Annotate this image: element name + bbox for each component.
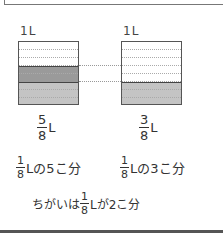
left-amount: 5 8 L [37,113,56,142]
beaker-left [18,41,79,105]
difference-statement: ちがいは 1 8 Lが2こ分 [32,191,140,216]
right-description: 1 8 Lの3こ分 [120,155,185,180]
water-level-line [122,82,181,83]
segment [19,50,78,58]
segment [122,50,181,58]
segment [122,74,181,82]
water-level-line [19,66,78,67]
beaker-left-label: 1L [20,24,36,38]
fraction: 1 8 [80,191,89,216]
segment-filled [122,98,181,104]
unit: L [48,120,55,135]
segment [19,42,78,50]
guide-line [79,81,121,82]
beaker-right-label: 1L [123,24,139,38]
comparison-level-line [19,82,78,83]
left-description: 1 8 Lの5こ分 [16,155,81,180]
segment-filled [122,82,181,90]
segment-filled [19,82,78,90]
right-amount: 3 8 L [139,113,158,142]
segment [19,58,78,66]
segment [122,66,181,74]
segment-filled [122,90,181,98]
guide-line [79,65,121,66]
fraction: 1 8 [120,155,129,180]
top-frame [4,0,223,5]
fraction: 1 8 [16,155,25,180]
segment [122,58,181,66]
beaker-right [121,41,182,105]
unit: L [150,120,157,135]
segment-difference [19,74,78,82]
segment-filled [19,90,78,98]
fraction: 5 8 [37,113,47,142]
segment-difference [19,66,78,74]
bottom-rule [0,230,223,233]
fraction: 3 8 [139,113,149,142]
segment-filled [19,98,78,104]
segment [122,42,181,50]
